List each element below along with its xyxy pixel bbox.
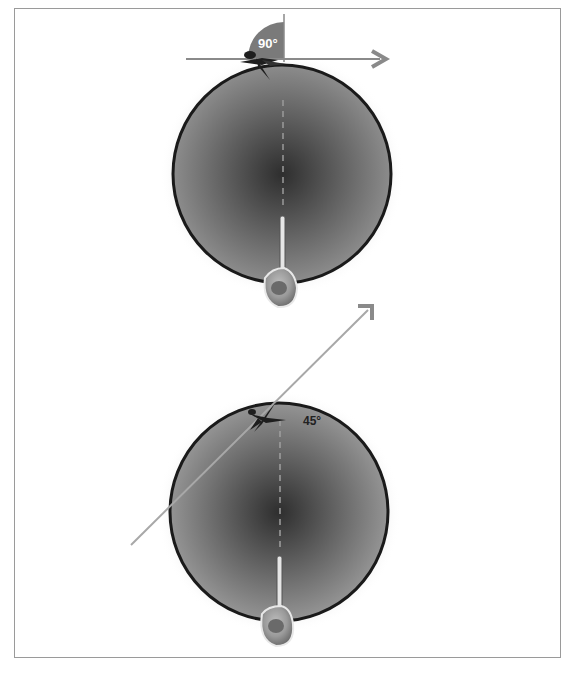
panel-top: 90° bbox=[160, 14, 404, 307]
angle-label-bottom: 45° bbox=[303, 414, 321, 428]
diagram-canvas: 90° 45° bbox=[0, 0, 573, 676]
panel-bottom: 45° bbox=[131, 306, 401, 646]
angle-label-top: 90° bbox=[258, 36, 278, 51]
